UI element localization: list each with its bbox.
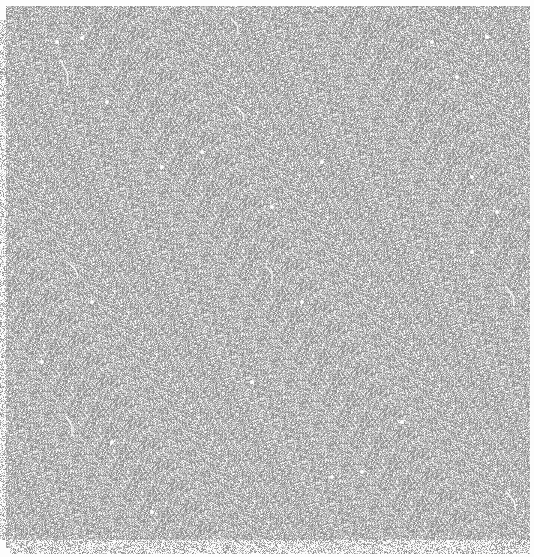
white-speck [105,100,109,104]
image-frame [0,0,534,557]
white-speck [485,35,489,39]
white-speck [250,380,254,384]
white-speck [150,510,154,514]
white-speck [470,175,474,179]
white-speck [40,360,44,364]
white-speck [320,160,324,164]
white-speck [90,300,94,304]
white-speck [430,40,434,44]
white-speck [110,440,114,444]
white-speck [495,210,499,214]
white-speck [330,475,334,479]
white-speck [200,150,204,154]
white-speck [300,300,304,304]
white-speck [455,75,459,79]
white-speck [400,420,404,424]
white-speck [160,165,164,169]
white-speck [270,205,274,209]
white-speck [470,250,474,254]
white-speck [55,40,59,44]
bottom-fringe-texture [10,540,530,554]
white-speck [80,36,84,40]
lattice-texture [6,6,530,548]
white-speck [360,470,364,474]
